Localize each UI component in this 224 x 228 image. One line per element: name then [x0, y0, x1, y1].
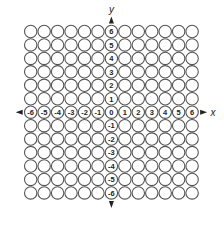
y-tick-label: 5: [109, 41, 113, 50]
grid-circle: [119, 173, 131, 185]
grid-circle: [25, 79, 37, 91]
grid-circle: [159, 39, 171, 51]
grid-circle: [186, 119, 198, 131]
grid-circle: [78, 52, 90, 64]
x-tick-label: -1: [95, 108, 102, 117]
grid-circle: [172, 93, 184, 105]
grid-circle: [159, 187, 171, 199]
grid-circle: [172, 160, 184, 172]
y-tick-label: -5: [108, 175, 115, 184]
grid-circle: [51, 146, 63, 158]
grid-circle: [132, 66, 144, 78]
grid-circle: [146, 52, 158, 64]
grid-circle: [78, 173, 90, 185]
grid-circle: [92, 25, 104, 37]
grid-circle: [25, 39, 37, 51]
grid-circle: [92, 187, 104, 199]
x-tick-label: 5: [177, 108, 181, 117]
grid-circle: [38, 146, 50, 158]
grid-circle: [51, 173, 63, 185]
grid-circle: [25, 25, 37, 37]
grid-circle: [51, 39, 63, 51]
grid-circle: [119, 79, 131, 91]
grid-circle: [146, 66, 158, 78]
x-axis-label: x: [210, 107, 217, 118]
x-tick-label: 1: [123, 108, 127, 117]
grid-circle: [38, 79, 50, 91]
grid-circle: [38, 25, 50, 37]
grid-circle: [51, 93, 63, 105]
grid-circle: [38, 160, 50, 172]
grid-circle: [119, 39, 131, 51]
grid-circle: [186, 173, 198, 185]
grid-circle: [132, 119, 144, 131]
y-tick-label: 3: [109, 68, 113, 77]
grid-circle: [119, 93, 131, 105]
grid-circle: [78, 93, 90, 105]
grid-circle: [146, 79, 158, 91]
grid-circle: [172, 119, 184, 131]
grid-circle: [92, 52, 104, 64]
grid-circle: [159, 79, 171, 91]
grid-circle: [186, 160, 198, 172]
grid-circle: [25, 146, 37, 158]
grid-circle: [186, 146, 198, 158]
grid-circle: [172, 79, 184, 91]
grid-circle: [132, 146, 144, 158]
x-tick-label: -6: [27, 108, 34, 117]
grid-circle: [146, 119, 158, 131]
x-tick-label: -2: [81, 108, 88, 117]
grid-circle: [159, 93, 171, 105]
grid-circle: [51, 187, 63, 199]
grid-circle: [38, 52, 50, 64]
y-tick-label: -1: [108, 121, 115, 130]
grid-circle: [65, 25, 77, 37]
grid-circle: [92, 66, 104, 78]
grid-circle: [186, 66, 198, 78]
grid-circle: [92, 79, 104, 91]
grid-circle: [78, 187, 90, 199]
grid-circle: [25, 173, 37, 185]
grid-circle: [132, 25, 144, 37]
grid-circle: [92, 93, 104, 105]
grid-circle: [146, 173, 158, 185]
grid-circle: [51, 160, 63, 172]
grid-circle: [186, 52, 198, 64]
x-tick-label: 0: [109, 108, 113, 117]
grid-circle: [159, 66, 171, 78]
y-axis-label: y: [108, 4, 115, 15]
grid-circle: [78, 25, 90, 37]
grid-circle: [38, 93, 50, 105]
grid-circle: [25, 187, 37, 199]
grid-circle: [92, 39, 104, 51]
grid-circle: [65, 79, 77, 91]
grid-circle: [51, 133, 63, 145]
grid-circle: [25, 133, 37, 145]
y-tick-label: 2: [109, 81, 113, 90]
y-tick-label: 6: [109, 27, 113, 36]
grid-circle: [172, 187, 184, 199]
grid-circle: [132, 187, 144, 199]
grid-circle: [65, 187, 77, 199]
y-axis-up-arrow-icon: [109, 17, 114, 24]
grid-circle: [186, 187, 198, 199]
grid-circle: [119, 66, 131, 78]
grid-circle: [119, 52, 131, 64]
grid-circle: [78, 119, 90, 131]
grid-circle: [78, 133, 90, 145]
grid-circle: [172, 133, 184, 145]
grid-circle: [186, 39, 198, 51]
grid-circle: [186, 93, 198, 105]
grid-circle: [92, 133, 104, 145]
grid-circle: [119, 146, 131, 158]
grid-circle: [65, 93, 77, 105]
grid-circle: [25, 66, 37, 78]
grid-circle: [159, 173, 171, 185]
y-tick-label: -4: [108, 162, 115, 171]
y-tick-label: 1: [109, 95, 113, 104]
grid-circle: [92, 146, 104, 158]
grid-circle: [92, 119, 104, 131]
x-tick-label: -5: [41, 108, 48, 117]
grid-circle: [146, 133, 158, 145]
grid-circle: [92, 160, 104, 172]
